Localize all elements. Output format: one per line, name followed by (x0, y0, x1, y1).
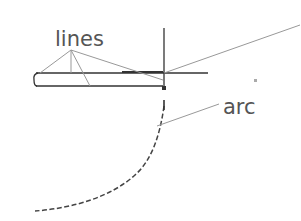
point-dot (254, 79, 257, 82)
bar-shape (34, 72, 208, 86)
lines-leaders (40, 50, 163, 86)
diagonal-line (164, 25, 300, 73)
arc-label: arc (223, 97, 256, 118)
arc-shape (35, 106, 164, 211)
lines-label: lines (55, 29, 104, 50)
arc-leader (157, 104, 219, 126)
endpoint-marker (162, 86, 166, 90)
diagram-svg (0, 0, 301, 221)
